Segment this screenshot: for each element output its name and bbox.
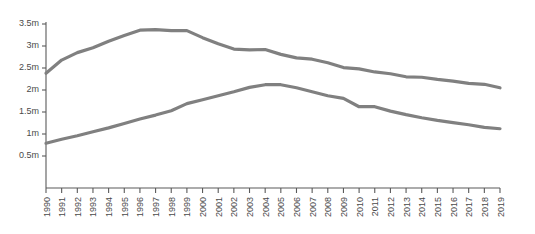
x-tick-label: 1997 [151,197,161,217]
x-tick-label: 2009 [339,197,349,217]
x-tick-label: 2005 [276,197,286,217]
y-tick-label: 1.5m [19,106,39,116]
x-tick-label: 2012 [386,197,396,217]
x-axis-tick-labels: 1990199119921993199419951996199719981999… [42,197,506,217]
series-line-lower-series [46,85,500,144]
x-tick-label: 2019 [496,197,506,217]
x-tick-label: 1992 [73,197,83,217]
x-tick-label: 2001 [214,197,224,217]
x-tick-label: 1994 [104,197,114,217]
x-tick-label: 2010 [355,197,365,217]
y-tick-label: 3m [26,40,39,50]
x-tick-label: 2000 [198,197,208,217]
x-tick-label: 2006 [292,197,302,217]
y-tick-label: 2.5m [19,62,39,72]
x-tick-label: 2014 [417,197,427,217]
x-tick-label: 2008 [323,197,333,217]
y-tick-label: 2m [26,84,39,94]
y-tick-label: 3.5m [19,18,39,28]
x-tick-label: 1990 [42,197,52,217]
x-tick-label: 2002 [229,197,239,217]
x-axis-tick-marks [46,188,500,193]
x-tick-label: 2011 [370,197,380,216]
y-axis-tick-labels: 0.5m1m1.5m2m2.5m3m3.5m [19,18,39,160]
x-tick-label: 1999 [182,197,192,217]
y-axis-tick-marks [42,24,46,156]
y-tick-label: 1m [26,128,39,138]
data-series-group [46,30,500,144]
line-chart: 0.5m1m1.5m2m2.5m3m3.5m 19901991199219931… [0,0,535,234]
x-tick-label: 1995 [120,197,130,217]
x-tick-label: 2018 [480,197,490,217]
y-tick-label: 0.5m [19,150,39,160]
x-tick-label: 1991 [57,197,67,217]
x-tick-label: 2016 [449,197,459,217]
x-tick-label: 2015 [433,197,443,217]
x-tick-label: 2007 [308,197,318,217]
x-tick-label: 1993 [88,197,98,217]
x-tick-label: 2004 [261,197,271,217]
x-tick-label: 2013 [402,197,412,217]
x-tick-label: 2003 [245,197,255,217]
x-tick-label: 2017 [464,197,474,217]
x-tick-label: 1998 [167,197,177,217]
chart-canvas: 0.5m1m1.5m2m2.5m3m3.5m 19901991199219931… [0,0,535,234]
x-tick-label: 1996 [135,197,145,217]
series-line-upper-series [46,30,500,88]
